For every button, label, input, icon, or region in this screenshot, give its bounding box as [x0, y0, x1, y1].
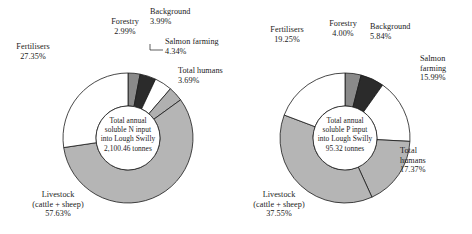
- slice-label-fertilisers-p-name: Fertilisers: [270, 25, 303, 34]
- slice-label-total-humans-p: Total humans 17.37%: [400, 146, 452, 175]
- center-line-3: into Lough Swilly: [305, 134, 385, 143]
- slice-label-forestry-p-pct: 4.00%: [320, 29, 366, 39]
- slice-label-salmon-farming-p-name: Salmon: [420, 54, 445, 63]
- slice-label-livestock-n-detail: (cattle + sheep): [11, 200, 105, 210]
- slice-label-salmon-farming-n-pct: 4.34%: [165, 47, 237, 57]
- slice-label-forestry-p: Forestry 4.00%: [320, 19, 366, 38]
- slice-label-livestock-p-name: Livestock: [263, 190, 296, 199]
- center-line-4: 95.32 tonnes: [305, 144, 385, 153]
- donut-center-label-p: Total annual soluble P input into Lough …: [305, 116, 385, 153]
- donut-chart-soluble-phosphorus: Total annual soluble P input into Lough …: [236, 0, 472, 234]
- slice-label-total-humans-n: Total humans 3.69%: [178, 66, 244, 85]
- slice-label-salmon-farming-n: Salmon farming 4.34%: [165, 37, 237, 56]
- slice-label-total-humans-n-pct: 3.69%: [178, 76, 244, 86]
- slice-label-total-humans-p-name2: humans: [400, 156, 452, 166]
- slice-label-total-humans-p-name: Total: [400, 146, 417, 155]
- two-donut-chart-figure: Total annual soluble N input into Lough …: [0, 0, 472, 234]
- slice-label-livestock-n-pct: 57.63%: [11, 209, 105, 219]
- leader-line-background-n: [150, 44, 163, 50]
- slice-label-salmon-farming-p: Salmon farming 15.99%: [420, 54, 472, 83]
- center-line-1: Total annual: [88, 116, 168, 125]
- slice-label-total-humans-p-pct: 17.37%: [400, 165, 452, 175]
- slice-label-background-p-pct: 5.84%: [370, 32, 436, 42]
- center-line-2: soluble N input: [88, 125, 168, 134]
- slice-label-background-n-name: Background: [150, 7, 191, 16]
- slice-label-fertilisers-n-name: Fertilisers: [16, 42, 49, 51]
- slice-label-salmon-farming-p-name2: farming: [420, 64, 472, 74]
- slice-label-background-p: Background 5.84%: [370, 22, 436, 41]
- slice-label-forestry-n: Forestry 2.99%: [102, 17, 148, 36]
- slice-label-background-n: Background 3.99%: [150, 7, 212, 26]
- slice-label-salmon-farming-n-name: Salmon farming: [165, 37, 219, 46]
- center-line-2: soluble P input: [305, 125, 385, 134]
- slice-label-total-humans-n-name: Total humans: [178, 66, 223, 75]
- slice-label-salmon-farming-p-pct: 15.99%: [420, 73, 472, 83]
- slice-label-fertilisers-p: Fertilisers 19.25%: [256, 25, 318, 44]
- slice-label-fertilisers-n-pct: 27.35%: [2, 52, 64, 62]
- slice-label-background-n-pct: 3.99%: [150, 17, 212, 27]
- slice-label-livestock-n: Livestock (cattle + sheep) 57.63%: [11, 190, 105, 219]
- slice-label-forestry-n-name: Forestry: [111, 17, 139, 26]
- slice-label-livestock-p: Livestock (cattle + sheep) 37.55%: [232, 190, 326, 219]
- center-line-4: 2,100.46 tonnes: [88, 144, 168, 153]
- slice-label-forestry-n-pct: 2.99%: [102, 27, 148, 37]
- slice-label-forestry-p-name: Forestry: [329, 19, 357, 28]
- donut-center-label-n: Total annual soluble N input into Lough …: [88, 116, 168, 153]
- slice-label-fertilisers-p-pct: 19.25%: [256, 35, 318, 45]
- slice-label-livestock-p-detail: (cattle + sheep): [232, 200, 326, 210]
- slice-label-fertilisers-n: Fertilisers 27.35%: [2, 42, 64, 61]
- slice-label-livestock-n-name: Livestock: [42, 190, 75, 199]
- slice-label-background-p-name: Background: [370, 22, 411, 31]
- center-line-1: Total annual: [305, 116, 385, 125]
- center-line-3: into Lough Swilly: [88, 134, 168, 143]
- slice-label-livestock-p-pct: 37.55%: [232, 209, 326, 219]
- donut-chart-soluble-nitrogen: Total annual soluble N input into Lough …: [0, 0, 236, 234]
